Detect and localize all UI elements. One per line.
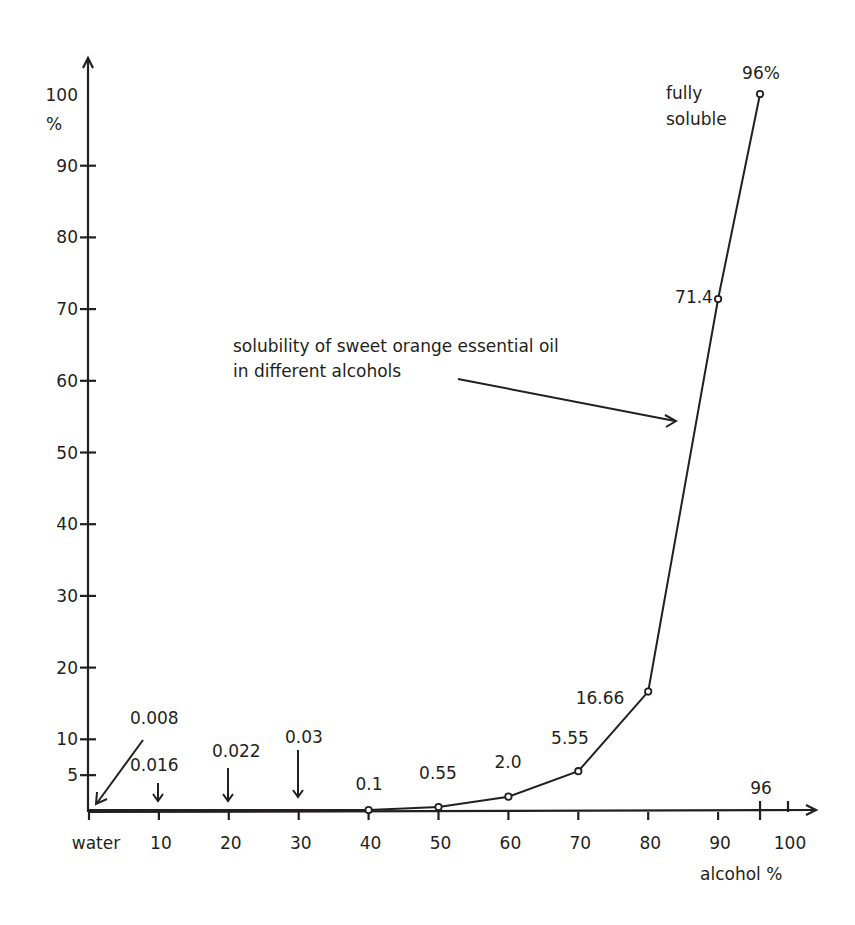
x-tick-label: 50: [430, 833, 452, 853]
point-label: 71.4: [675, 287, 713, 307]
y-tick-label: 100: [46, 85, 78, 105]
point-label: 0.016: [130, 755, 179, 775]
data-point: [757, 91, 763, 97]
x-tick-label: 10: [150, 833, 172, 853]
soluble-label: soluble: [666, 109, 727, 129]
data-series: 0.0080.0160.0220.030.10.552.05.5516.6671…: [89, 63, 780, 813]
x-tick-label: 80: [639, 833, 661, 853]
point-label: 0.008: [130, 708, 179, 728]
point-label: 16.66: [576, 688, 625, 708]
solubility-line: [89, 94, 760, 810]
point-label: 2.0: [494, 752, 521, 772]
data-point: [505, 793, 511, 799]
point-label: 5.55: [551, 728, 589, 748]
point-label: 96%: [742, 63, 780, 83]
data-point: [435, 804, 441, 810]
annotation-line-2: in different alcohols: [233, 361, 401, 381]
x-tick-label: 60: [500, 833, 522, 853]
x-tick-label: 30: [290, 833, 312, 853]
point-label: 0.03: [285, 727, 323, 747]
y-tick-label: 5: [67, 765, 78, 785]
y-tick-label: 10: [56, 729, 78, 749]
data-point: [715, 296, 721, 302]
axes: [83, 58, 816, 815]
y-tick-label: 60: [56, 371, 78, 391]
y-tick-label: 90: [56, 156, 78, 176]
annotation-line-1: solubility of sweet orange essential oil: [233, 336, 559, 356]
y-tick-label: 30: [56, 586, 78, 606]
point-label: 0.022: [212, 741, 261, 761]
x-tick-96-label: 96: [750, 778, 772, 798]
x-tick-label: 40: [360, 833, 382, 853]
y-tick-label: 80: [56, 227, 78, 247]
x-tick-label: water: [72, 833, 120, 853]
x-tick-label: 70: [569, 833, 591, 853]
annotation-arrow-icon: [458, 379, 676, 427]
fully-label: fully: [666, 83, 702, 103]
point-label: 0.55: [419, 763, 457, 783]
x-tick-label: 90: [709, 833, 731, 853]
data-point: [365, 807, 371, 813]
y-tick-label: 20: [56, 658, 78, 678]
y-tick-label: 40: [56, 514, 78, 534]
y-tick-label: 70: [56, 299, 78, 319]
data-point: [575, 768, 581, 774]
x-tick-label: 20: [220, 833, 242, 853]
x-tick-label: 100: [774, 833, 806, 853]
y-tick-label: 50: [56, 443, 78, 463]
point-label: 0.1: [355, 774, 382, 794]
low-value-arrows-icon: [96, 740, 303, 804]
x-axis-title: alcohol %: [700, 864, 782, 884]
y-axis-unit-label: %: [46, 114, 62, 134]
data-point: [645, 688, 651, 694]
x-axis-ticks: water10203040506070809010096: [72, 778, 806, 853]
solubility-chart: 5102030405060708090100 water102030405060…: [0, 0, 855, 925]
